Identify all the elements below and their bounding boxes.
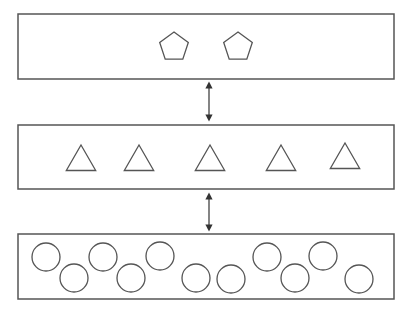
layered-diagram bbox=[0, 0, 411, 313]
triangle-shape bbox=[124, 145, 153, 171]
circle-shape bbox=[309, 242, 337, 270]
circle-shape bbox=[117, 264, 145, 292]
circle-shape bbox=[146, 242, 174, 270]
circle-shape bbox=[182, 264, 210, 292]
triangle-shape bbox=[195, 145, 224, 171]
middle-layer bbox=[18, 125, 394, 189]
top-layer-box bbox=[18, 14, 394, 79]
pentagon-shape bbox=[160, 32, 189, 59]
triangle-shape bbox=[66, 145, 95, 171]
circle-shape bbox=[60, 264, 88, 292]
bottom-layer-box bbox=[18, 234, 394, 299]
pentagon-shape bbox=[224, 32, 253, 59]
circle-shape bbox=[345, 265, 373, 293]
circle-shape bbox=[89, 243, 117, 271]
circle-shape bbox=[281, 264, 309, 292]
triangle-shape bbox=[330, 143, 359, 169]
circle-shape bbox=[253, 243, 281, 271]
triangle-shape bbox=[266, 145, 295, 171]
top-layer bbox=[18, 14, 394, 79]
bottom-layer bbox=[18, 234, 394, 299]
circle-shape bbox=[32, 243, 60, 271]
circle-shape bbox=[217, 265, 245, 293]
